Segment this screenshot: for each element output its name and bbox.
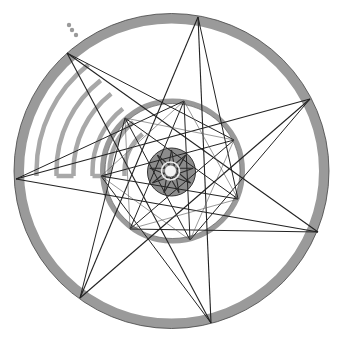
core — [162, 162, 180, 180]
core-circle — [165, 165, 177, 177]
thin-line — [190, 140, 234, 240]
connector-line — [190, 99, 310, 240]
dot — [70, 28, 74, 32]
star-ring-diagram — [0, 0, 342, 340]
dot — [67, 23, 71, 27]
outer-star-edge — [67, 53, 318, 232]
connector-line — [101, 176, 211, 323]
diagram-canvas — [0, 0, 342, 340]
thin-line — [130, 199, 238, 229]
ellipsis-dots — [67, 23, 78, 37]
outer-star-edge — [198, 17, 211, 323]
dot — [74, 33, 78, 37]
